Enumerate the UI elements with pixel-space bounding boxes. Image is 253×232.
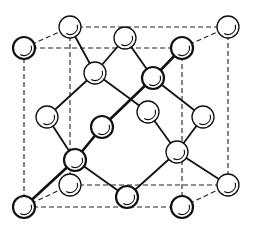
atom-face-front xyxy=(91,116,113,138)
atom-front-bottom-left xyxy=(13,196,35,218)
atoms xyxy=(13,16,239,218)
atom-back-bottom-left xyxy=(59,174,81,196)
atom-face-top xyxy=(114,27,136,49)
atom-back-top-left xyxy=(59,16,81,38)
atom-interior-4 xyxy=(166,141,188,163)
atom-front-top-right xyxy=(171,37,193,59)
atom-interior-1 xyxy=(84,62,106,84)
atom-interior-2 xyxy=(142,67,164,89)
atom-front-bottom-right xyxy=(171,196,193,218)
diamond-cubic-lattice-diagram xyxy=(0,0,253,232)
atom-back-bottom-right xyxy=(217,174,239,196)
atom-face-back xyxy=(137,101,159,123)
atom-back-top-right xyxy=(217,16,239,38)
atom-face-bottom xyxy=(116,186,138,208)
atom-interior-3 xyxy=(64,149,86,171)
atom-face-right xyxy=(192,106,214,128)
atom-face-left xyxy=(36,106,58,128)
atom-front-top-left xyxy=(13,37,35,59)
